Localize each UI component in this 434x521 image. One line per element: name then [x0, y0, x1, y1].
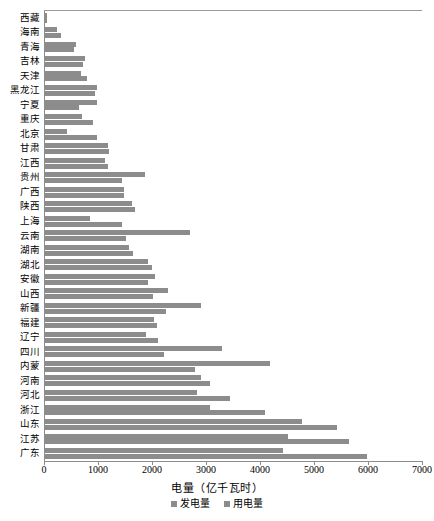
y-axis-label: 浙江 [0, 405, 40, 415]
bar-generation [44, 216, 90, 221]
y-axis-label: 河北 [0, 390, 40, 400]
bar-consumption [44, 105, 79, 110]
y-axis-label: 广东 [0, 448, 40, 458]
bar-consumption [44, 425, 337, 430]
bar-generation [44, 143, 108, 148]
y-axis-label: 甘肃 [0, 143, 40, 153]
bar-generation [44, 129, 67, 134]
legend-label-consumption: 用电量 [233, 498, 263, 510]
bar-group [44, 171, 422, 186]
bar-generation [44, 100, 97, 105]
y-axis-label: 重庆 [0, 114, 40, 124]
bar-group [44, 301, 422, 316]
bar-consumption [44, 62, 83, 67]
y-axis-label: 吉林 [0, 56, 40, 66]
bar-group [44, 200, 422, 215]
bar-consumption [44, 338, 158, 343]
bar-group [44, 84, 422, 99]
bar-group [44, 156, 422, 171]
x-axis-line [44, 461, 423, 462]
x-axis-tick-label: 6000 [348, 464, 388, 476]
x-axis-tick-label: 2000 [132, 464, 172, 476]
y-axis-label: 山东 [0, 419, 40, 429]
bar-generation [44, 375, 201, 380]
bar-group [44, 345, 422, 360]
bar-generation [44, 85, 97, 90]
bar-generation [44, 245, 129, 250]
bar-generation [44, 434, 288, 439]
bar-generation [44, 172, 145, 177]
legend-item-consumption: 用电量 [224, 498, 263, 510]
bar-group [44, 359, 422, 374]
bar-generation [44, 317, 154, 322]
bar-consumption [44, 164, 108, 169]
bar-group [44, 55, 422, 70]
bar-group [44, 330, 422, 345]
bar-group [44, 446, 422, 461]
y-axis-label: 湖南 [0, 245, 40, 255]
bar-generation [44, 71, 81, 76]
bar-consumption [44, 454, 367, 459]
x-axis-title: 电量（亿千瓦时） [0, 481, 434, 495]
bar-consumption [44, 396, 230, 401]
y-axis-label: 江苏 [0, 434, 40, 444]
y-axis-label: 广西 [0, 187, 40, 197]
bar-group [44, 388, 422, 403]
bar-consumption [44, 381, 210, 386]
x-axis-tick-label: 4000 [240, 464, 280, 476]
bar-group [44, 26, 422, 41]
bar-generation [44, 448, 283, 453]
x-axis-tick-label: 0 [24, 464, 64, 476]
bar-consumption [44, 309, 166, 314]
bar-generation [44, 42, 76, 47]
bar-chart: 西藏海南青海吉林天津黑龙江宁夏重庆北京甘肃江西贵州广西陕西上海云南湖南湖北安徽山… [0, 0, 434, 521]
x-axis-tick-label: 7000 [402, 464, 434, 476]
bar-group [44, 403, 422, 418]
bar-generation [44, 361, 270, 366]
bar-generation [44, 13, 47, 18]
legend-item-generation: 发电量 [171, 498, 210, 510]
plot-area [44, 11, 422, 461]
bar-consumption [44, 352, 164, 357]
bar-generation [44, 419, 302, 424]
y-axis-label: 湖北 [0, 260, 40, 270]
bar-consumption [44, 120, 93, 125]
bar-generation [44, 158, 105, 163]
chart-legend: 发电量 用电量 [0, 498, 434, 510]
bar-consumption [44, 280, 148, 285]
y-axis-label: 贵州 [0, 172, 40, 182]
y-axis-label: 云南 [0, 231, 40, 241]
bar-consumption [44, 135, 97, 140]
bar-group [44, 287, 422, 302]
x-axis-tick-label: 5000 [294, 464, 334, 476]
bar-consumption [44, 236, 126, 241]
y-axis-label: 青海 [0, 42, 40, 52]
y-axis-category-labels: 西藏海南青海吉林天津黑龙江宁夏重庆北京甘肃江西贵州广西陕西上海云南湖南湖北安徽山… [0, 11, 42, 461]
bar-consumption [44, 193, 124, 198]
bar-group [44, 316, 422, 331]
bar-generation [44, 114, 82, 119]
legend-label-generation: 发电量 [180, 498, 210, 510]
y-axis-label: 西藏 [0, 13, 40, 23]
y-axis-label: 河南 [0, 376, 40, 386]
bar-generation [44, 288, 168, 293]
bar-consumption [44, 265, 152, 270]
y-axis-label: 山西 [0, 289, 40, 299]
bar-group [44, 432, 422, 447]
y-axis-label: 黑龙江 [0, 85, 40, 95]
bar-consumption [44, 323, 157, 328]
bar-group [44, 40, 422, 55]
bar-generation [44, 303, 201, 308]
bar-generation [44, 405, 210, 410]
bar-consumption [44, 18, 47, 23]
bar-consumption [44, 91, 95, 96]
y-axis-label: 海南 [0, 27, 40, 37]
y-axis-label: 陕西 [0, 201, 40, 211]
bar-consumption [44, 207, 135, 212]
legend-swatch-generation [171, 501, 177, 507]
bar-generation [44, 390, 197, 395]
y-axis-label: 辽宁 [0, 332, 40, 342]
bar-consumption [44, 294, 153, 299]
y-axis-label: 天津 [0, 71, 40, 81]
bar-consumption [44, 439, 349, 444]
